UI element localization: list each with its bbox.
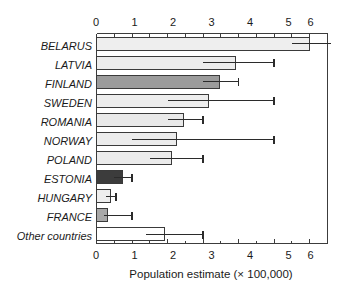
category-labels: BELARUS LATVIA FINLAND SWEDEN ROMANIA NO… xyxy=(17,40,93,242)
top-tick-label-2: 2 xyxy=(170,16,176,28)
bottom-tick-label-2: 2 xyxy=(170,249,176,261)
top-tick-label-5: 5 xyxy=(285,16,291,28)
category-label-romania: ROMANIA xyxy=(41,116,92,128)
top-tick-label-1: 1 xyxy=(131,16,137,28)
category-label-estonia: ESTONIA xyxy=(44,173,92,185)
category-label-france: FRANCE xyxy=(47,211,93,223)
category-label-sweden: SWEDEN xyxy=(44,97,92,109)
top-tick-labels: 0 1 2 3 4 5 6 xyxy=(93,16,314,28)
bar-group-latvia xyxy=(97,57,275,70)
top-tick-label-0: 0 xyxy=(93,16,99,28)
bars-group xyxy=(97,38,332,241)
bar-group-sweden xyxy=(97,95,275,108)
bar-group-other-countries xyxy=(97,228,204,241)
bar-belarus xyxy=(97,38,310,51)
category-label-poland: POLAND xyxy=(47,154,92,166)
bar-group-france xyxy=(97,209,133,222)
bar-group-poland xyxy=(97,152,204,165)
chart-container: 0 1 2 3 4 5 6 0 1 2 3 4 5 6 BELARUS LATV… xyxy=(0,0,342,288)
category-label-norway: NORWAY xyxy=(44,135,93,147)
bottom-tick-label-6: 6 xyxy=(307,249,313,261)
top-tick-label-4: 4 xyxy=(247,16,253,28)
top-tick-label-3: 3 xyxy=(208,16,214,28)
bar-finland xyxy=(97,76,220,89)
category-label-hungary: HUNGARY xyxy=(37,192,92,204)
bar-group-hungary xyxy=(97,190,117,203)
bottom-tick-label-3: 3 xyxy=(208,249,214,261)
category-label-latvia: LATVIA xyxy=(55,59,92,71)
bottom-tick-label-0: 0 xyxy=(93,249,99,261)
bottom-tick-label-4: 4 xyxy=(247,249,253,261)
bottom-tick-label-5: 5 xyxy=(285,249,291,261)
top-tick-label-6: 6 xyxy=(307,16,313,28)
bar-group-estonia xyxy=(97,171,133,184)
category-label-finland: FINLAND xyxy=(45,78,92,90)
bar-group-belarus xyxy=(97,38,332,51)
bottom-tick-label-1: 1 xyxy=(131,249,137,261)
category-label-other-countries: Other countries xyxy=(17,230,93,242)
bar-chart: 0 1 2 3 4 5 6 0 1 2 3 4 5 6 BELARUS LATV… xyxy=(0,0,342,288)
bottom-tick-labels: 0 1 2 3 4 5 6 xyxy=(93,249,314,261)
x-axis-title: Population estimate (× 100,000) xyxy=(129,268,293,280)
bar-group-norway xyxy=(97,133,275,146)
bar-group-finland xyxy=(97,76,239,89)
bar-group-romania xyxy=(97,114,204,127)
category-label-belarus: BELARUS xyxy=(41,40,93,52)
